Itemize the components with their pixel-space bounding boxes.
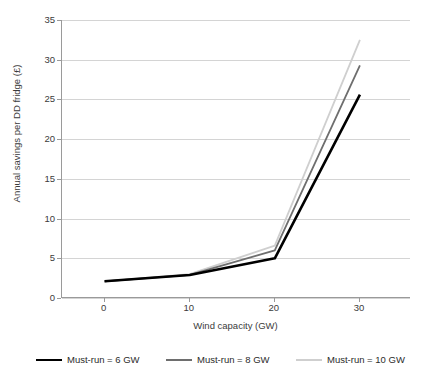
x-axis-tick-label: 20 — [254, 302, 294, 313]
series-line — [105, 95, 360, 282]
legend-label: Must-run = 6 GW — [67, 354, 140, 366]
y-axis-tick-label: 20 — [29, 134, 55, 144]
y-axis-tick-label: 25 — [29, 94, 55, 104]
legend-item: Must-run = 6 GW — [36, 352, 140, 368]
series-layer — [62, 20, 411, 298]
line-chart: Annual savings per DD fridge (£) 0510152… — [0, 0, 425, 376]
gridline — [62, 298, 410, 299]
legend-item: Must-run = 8 GW — [166, 352, 270, 368]
x-axis-tick-label: 0 — [84, 302, 124, 313]
x-axis-tick-label: 30 — [339, 302, 379, 313]
x-axis-tick-mark — [274, 298, 275, 302]
y-axis-label: Annual savings per DD fridge (£) — [11, 14, 22, 254]
y-axis-tick-mark — [57, 298, 61, 299]
series-line — [105, 40, 360, 281]
legend: Must-run = 6 GW Must-run = 8 GW Must-run… — [0, 352, 425, 368]
x-axis-tick-mark — [359, 298, 360, 302]
x-axis-tick-mark — [189, 298, 190, 302]
y-axis-tick-label: 35 — [29, 15, 55, 25]
legend-label: Must-run = 10 GW — [327, 354, 405, 366]
legend-swatch-icon — [166, 359, 192, 361]
legend-swatch-icon — [296, 359, 322, 361]
x-axis-tick-mark — [104, 298, 105, 302]
y-axis-tick-label: 30 — [29, 55, 55, 65]
y-axis-tick-label: 15 — [29, 174, 55, 184]
legend-item: Must-run = 10 GW — [296, 352, 405, 368]
y-axis-tick-label: 5 — [29, 253, 55, 263]
x-axis-label: Wind capacity (GW) — [61, 320, 410, 331]
legend-label: Must-run = 8 GW — [197, 354, 270, 366]
y-axis-tick-label: 10 — [29, 214, 55, 224]
plot-area — [61, 20, 410, 298]
legend-swatch-icon — [36, 359, 62, 361]
x-axis-tick-label: 10 — [169, 302, 209, 313]
series-line — [105, 65, 360, 281]
y-axis-tick-label: 0 — [29, 293, 55, 303]
